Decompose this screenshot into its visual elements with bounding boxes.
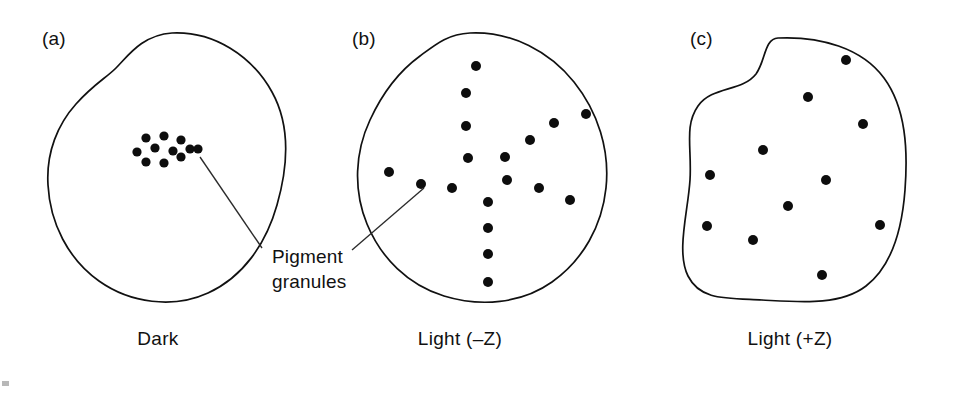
panel-c: (c) Light (+Z) [683, 28, 906, 349]
pigment-granule [483, 277, 493, 287]
pigment-granule [141, 157, 150, 166]
pigment-granule [159, 158, 168, 167]
panel-caption-b: Light (–Z) [418, 328, 502, 349]
panel-label-c: (c) [690, 28, 713, 49]
panel-b: (b) Light (–Z) [352, 28, 607, 349]
pigment-granule [565, 195, 575, 205]
cell-outline-a [48, 33, 286, 302]
pigment-granule [534, 183, 544, 193]
pigment-granule [821, 175, 831, 185]
pigment-granule [141, 133, 150, 142]
pigment-granule [758, 145, 768, 155]
figure-canvas: (a) Dark (b) Light (–Z) (c) Light (+Z) P… [0, 0, 959, 393]
pigment-granule [483, 223, 493, 233]
annotation-line-1: Pigment [272, 246, 344, 267]
panel-a: (a) Dark [42, 28, 286, 349]
pigment-granule [483, 249, 493, 259]
pigment-granule [858, 119, 868, 129]
panel-caption-a: Dark [137, 328, 179, 349]
pigment-granule [817, 270, 827, 280]
cell-outline-c [683, 38, 906, 302]
pigment-granule [159, 131, 168, 140]
pigment-granule [581, 109, 591, 119]
pigment-granule [461, 121, 471, 131]
pigment-granule [841, 55, 851, 65]
pigment-granule [416, 179, 426, 189]
panel-caption-c: Light (+Z) [748, 328, 833, 349]
pigment-granule [748, 235, 758, 245]
pigment-granule [483, 197, 493, 207]
panel-label-b: (b) [352, 28, 376, 49]
panel-label-a: (a) [42, 28, 66, 49]
pigment-granule [525, 135, 535, 145]
pigment-granule [193, 144, 202, 153]
cell-outline-b [358, 33, 607, 302]
pigment-granule [384, 167, 394, 177]
annotation-line-2: granules [272, 271, 346, 292]
pigment-granule [150, 143, 159, 152]
pigment-granule [549, 118, 559, 128]
scan-artifact [2, 381, 9, 386]
pigment-granule [783, 201, 793, 211]
pigment-granule [875, 220, 885, 230]
pigment-granule [185, 144, 194, 153]
pigment-granules-annotation: Pigment granules [272, 246, 346, 292]
pigment-granule [500, 152, 510, 162]
pigment-granule [176, 135, 185, 144]
pigment-granule-figure: (a) Dark (b) Light (–Z) (c) Light (+Z) P… [0, 0, 959, 393]
pigment-granule [168, 146, 177, 155]
pigment-granule [447, 183, 457, 193]
pigment-granule [502, 175, 512, 185]
pigment-granule [176, 152, 185, 161]
pigment-granule [702, 221, 712, 231]
pigment-granule [705, 170, 715, 180]
pigment-granule [463, 153, 473, 163]
pigment-granule [471, 61, 481, 71]
pigment-granule [132, 147, 141, 156]
pigment-granule [803, 92, 813, 102]
pigment-granule [461, 88, 471, 98]
